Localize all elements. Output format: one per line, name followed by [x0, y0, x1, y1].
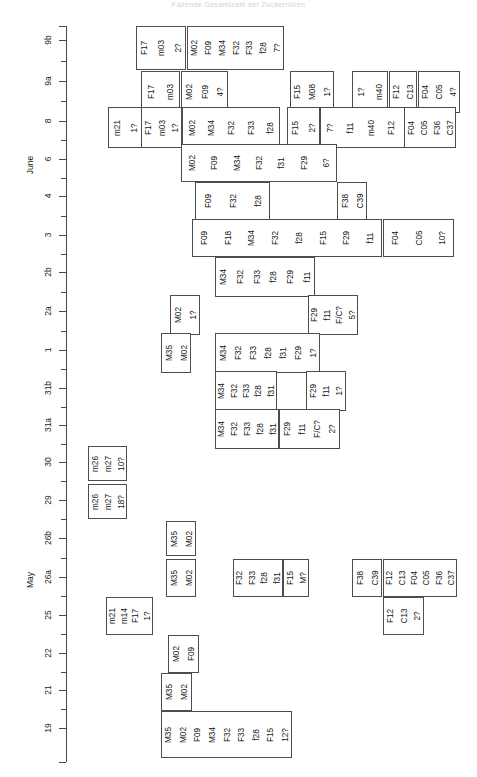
data-box-label: f28	[261, 572, 269, 583]
data-box-label: F33	[249, 346, 257, 360]
data-box-label: F/C?	[314, 420, 322, 438]
data-box-label: f11	[347, 122, 355, 133]
data-box-label: C39	[356, 193, 364, 208]
data-box-label: F32	[231, 422, 239, 436]
data-box[interactable]: F15M?	[283, 559, 309, 597]
data-box-label: C05	[436, 84, 444, 99]
data-box-label: m03	[158, 40, 166, 56]
data-box[interactable]: F29f11F/C?5?	[308, 295, 358, 335]
data-box-label: M02	[191, 40, 199, 56]
axis-tick-22	[59, 653, 66, 654]
data-box-label: F09	[204, 194, 212, 208]
data-box[interactable]: m26m2710?	[88, 446, 127, 481]
data-box-label: 6?	[323, 158, 331, 167]
axis-minor-tick	[61, 407, 66, 408]
data-box[interactable]: F17m032?	[136, 26, 186, 70]
data-box-label: 1?	[189, 310, 197, 319]
data-box[interactable]: F32F33f28f31	[233, 559, 283, 597]
axis-tick-29	[59, 500, 66, 501]
data-box[interactable]: M34F32F33f28f31	[215, 409, 279, 449]
data-box-label: F15	[294, 85, 302, 99]
data-box-label: m03	[158, 120, 166, 136]
data-box[interactable]: F29f111?	[306, 371, 346, 411]
data-box-label: F33	[246, 41, 254, 55]
data-box-label: m27	[104, 494, 112, 510]
axis-minor-tick	[61, 101, 66, 102]
data-box-label: 1?	[144, 611, 152, 620]
chart-canvas: Fallende Gesamtzahl der Zuckerrüben 9b9a…	[0, 0, 477, 777]
data-box-label: F32	[237, 270, 245, 284]
data-box[interactable]: F17m031?	[141, 107, 182, 148]
data-box[interactable]: M34F32F33f28f31F291?	[215, 333, 320, 373]
data-box-label: F32	[236, 571, 244, 585]
data-box-label: F32	[230, 384, 238, 398]
data-box[interactable]: m21m14F171?	[106, 597, 153, 635]
data-box-label: F09	[201, 85, 209, 99]
data-box[interactable]: M02F09M34F32F33f287?	[187, 26, 284, 70]
data-box-label: F29	[311, 308, 319, 322]
data-box-label: F15	[292, 120, 300, 134]
data-box[interactable]: M02F09	[168, 635, 199, 673]
axis-tick-label-19: 19	[43, 723, 53, 732]
data-box[interactable]: F04C05F36C37	[404, 107, 456, 148]
data-box[interactable]: F38C39	[337, 182, 367, 220]
data-box[interactable]: F04C0510?	[383, 219, 454, 257]
axis-minor-tick	[61, 216, 66, 217]
data-box-label: C05	[415, 230, 423, 245]
data-box[interactable]: F29f11F/C?2?	[279, 409, 340, 449]
data-box[interactable]: F38C39	[352, 559, 382, 597]
data-box-label: m03	[167, 84, 175, 100]
data-box[interactable]: M35M02	[161, 673, 192, 711]
data-box-label: M34	[219, 345, 227, 361]
data-box-label: m21	[109, 608, 117, 624]
data-box-label: 7?	[274, 43, 282, 52]
data-box-label: f31	[274, 572, 282, 583]
axis-minor-tick	[61, 61, 66, 62]
data-box[interactable]: M02M34F32F33f28	[182, 107, 280, 148]
data-box[interactable]: M35M02	[161, 333, 191, 373]
data-box-label: F09	[201, 231, 209, 245]
data-box[interactable]: F12C132?	[383, 597, 424, 635]
data-box[interactable]: F09F32f28	[195, 182, 270, 220]
data-box[interactable]: m211?	[108, 107, 142, 148]
data-box[interactable]: m26m2718?	[88, 484, 127, 519]
data-box-label: f11	[367, 233, 375, 244]
data-box-label: f28	[264, 347, 272, 358]
data-box-label: F29	[284, 422, 292, 436]
axis-tick-label-22: 22	[43, 648, 53, 657]
data-box[interactable]: M02F09M34F32f31F296?	[181, 144, 337, 182]
data-box-label: F32	[256, 156, 264, 170]
data-box-label: 7?	[327, 123, 335, 132]
data-box-label: M34	[248, 230, 256, 246]
data-box[interactable]: M35M02	[166, 559, 196, 597]
data-box-label: F04	[411, 571, 419, 585]
axis-tick-30	[59, 462, 66, 463]
data-box-label: M02	[185, 531, 193, 547]
data-box[interactable]: M021?	[170, 295, 200, 335]
data-box-label: M34	[218, 421, 226, 437]
data-box[interactable]: M34F32F33f28f31	[215, 371, 277, 411]
data-box-label: 2?	[329, 424, 337, 433]
data-box-label: 18?	[117, 495, 125, 509]
axis-minor-tick	[61, 331, 66, 332]
data-box[interactable]: M34F32F33f28F29f11	[215, 257, 315, 297]
axis-minor-tick	[61, 558, 66, 559]
data-box-label: F12	[388, 120, 396, 134]
data-box[interactable]: M35M02	[166, 521, 196, 556]
data-box-label: M02	[189, 120, 197, 136]
data-box-label: 4?	[450, 87, 458, 96]
data-box-label: C13	[398, 570, 406, 585]
data-box-label: F36	[433, 120, 441, 134]
data-box[interactable]: F152?	[287, 107, 320, 148]
axis-month-label-june: June	[25, 156, 35, 174]
data-box-label: f11	[324, 310, 332, 321]
data-box-label: F38	[341, 194, 349, 208]
axis-tick-label-21: 21	[43, 685, 53, 694]
data-box[interactable]: M35M02F09M34F32F33f28F1512?	[161, 711, 292, 758]
axis-tick-26a	[59, 577, 66, 578]
data-box-label: m40	[367, 120, 375, 136]
data-box[interactable]: F09F18M34F32f28F15F29f11	[192, 219, 382, 257]
data-box-label: F15	[320, 231, 328, 245]
data-box[interactable]: F12C13F04C05F36C37	[383, 559, 457, 597]
axis-tick-1	[59, 350, 66, 351]
